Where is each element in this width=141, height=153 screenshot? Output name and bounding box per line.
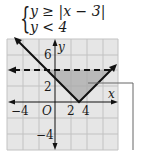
y-tick-6: 6 xyxy=(44,48,52,62)
x-tick-neg4: −4 xyxy=(11,104,29,118)
grid-background xyxy=(7,39,118,150)
x-axis-label: x xyxy=(108,87,115,101)
x-tick-4: 4 xyxy=(82,104,90,118)
x-tick-2: 2 xyxy=(67,104,75,118)
y-tick-2: 2 xyxy=(44,80,52,94)
y-axis-label: y xyxy=(57,40,65,54)
y-tick-neg4: −4 xyxy=(36,128,54,142)
origin-label: O xyxy=(42,104,52,118)
coordinate-graph: y x 6 2 −4 −4 O 2 4 xyxy=(0,0,141,153)
